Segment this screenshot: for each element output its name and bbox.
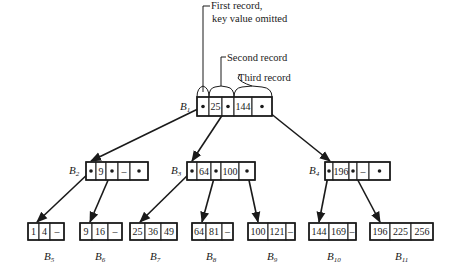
node-b1: 25144B1 xyxy=(180,97,272,116)
pointer-dot-icon xyxy=(260,105,264,109)
node-key: – xyxy=(112,226,119,237)
node-b6: 916–B6 xyxy=(80,223,122,264)
node-key: – xyxy=(121,166,128,177)
annotation-second-text: Second record xyxy=(227,52,288,63)
pointer-dot-icon xyxy=(226,105,230,109)
node-label: B3 xyxy=(171,164,182,178)
node-label: B1 xyxy=(180,100,190,114)
pointer-dot-icon xyxy=(137,169,141,173)
node-b7: 253649B7 xyxy=(130,223,177,264)
node-label: B2 xyxy=(69,164,80,178)
pointer-dot-icon xyxy=(214,169,218,173)
edge-b2-to-b5 xyxy=(37,171,91,222)
node-key: 100 xyxy=(251,226,266,237)
b-tree-diagram: First record, key value omitted Second r… xyxy=(0,0,458,271)
node-label: B10 xyxy=(327,250,341,264)
node-label: B4 xyxy=(309,164,320,178)
pointer-dot-icon xyxy=(327,169,331,173)
pointer-dot-icon xyxy=(378,169,382,173)
node-key: 225 xyxy=(393,226,408,237)
edge-b1-to-b2 xyxy=(91,107,203,162)
node-key: – xyxy=(224,226,231,237)
node-key: – xyxy=(287,226,294,237)
node-key: 144 xyxy=(236,101,251,112)
nodes: 25144B19–B264100B3196–B414–B5916–B625364… xyxy=(28,97,433,264)
node-label: B6 xyxy=(95,250,106,264)
pointer-dot-icon xyxy=(201,105,205,109)
node-b11: 196225256B11 xyxy=(370,223,433,264)
node-key: 121 xyxy=(270,226,285,237)
node-key: 144 xyxy=(312,226,327,237)
node-key: 100 xyxy=(223,166,238,177)
node-key: – xyxy=(349,226,356,237)
node-label: B5 xyxy=(44,250,55,264)
node-key: 196 xyxy=(373,226,388,237)
node-key: 64 xyxy=(199,166,209,177)
node-b3: 64100B3 xyxy=(171,162,255,180)
node-key: 169 xyxy=(331,226,346,237)
node-b8: 6481–B8 xyxy=(192,223,233,264)
node-key: 64 xyxy=(194,226,204,237)
annotation-third-text: Third record xyxy=(238,72,292,83)
node-key: 1 xyxy=(31,226,36,237)
node-key: 196 xyxy=(334,166,349,177)
node-b9: 100121–B9 xyxy=(248,223,295,264)
node-key: 9 xyxy=(99,166,104,177)
node-b5: 14–B5 xyxy=(28,223,64,264)
pointer-dot-icon xyxy=(245,169,249,173)
pointer-dot-icon xyxy=(89,169,93,173)
pointer-dot-icon xyxy=(190,169,194,173)
annotation-third-record: Third record xyxy=(234,72,292,97)
node-b2: 9–B2 xyxy=(69,162,148,180)
node-label: B7 xyxy=(150,250,161,264)
node-label: B9 xyxy=(267,250,278,264)
node-key: 4 xyxy=(42,226,47,237)
node-label: B11 xyxy=(395,250,408,264)
node-b4: 196–B4 xyxy=(309,162,390,180)
node-key: 16 xyxy=(95,226,105,237)
node-key: 25 xyxy=(133,226,143,237)
node-key: – xyxy=(54,226,61,237)
node-key: 256 xyxy=(415,226,430,237)
node-key: 9 xyxy=(84,226,89,237)
node-key: 81 xyxy=(209,226,219,237)
annotation-first-line1: First record, xyxy=(211,0,262,11)
pointer-dot-icon xyxy=(110,169,114,173)
annotation-first-line2: key value omitted xyxy=(212,13,288,24)
node-label: B8 xyxy=(206,250,217,264)
node-b10: 144169–B10 xyxy=(309,223,356,264)
node-key: 49 xyxy=(164,226,174,237)
node-key: 36 xyxy=(148,226,158,237)
node-key: – xyxy=(360,166,367,177)
node-key: 25 xyxy=(211,101,221,112)
pointer-dot-icon xyxy=(351,169,355,173)
